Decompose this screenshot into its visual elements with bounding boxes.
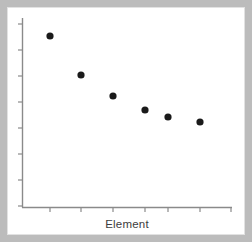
x-axis-label: Element	[105, 218, 149, 230]
data-points-group	[46, 32, 203, 125]
axes-group	[22, 18, 232, 208]
y-axis-ticks	[18, 24, 22, 206]
chart-figure: Element	[0, 0, 252, 242]
data-point	[141, 106, 148, 113]
data-point	[109, 92, 116, 99]
scatter-plot: Element	[0, 0, 252, 242]
data-point	[77, 71, 84, 78]
data-point	[164, 113, 171, 120]
data-point	[46, 32, 53, 39]
data-point	[196, 118, 203, 125]
